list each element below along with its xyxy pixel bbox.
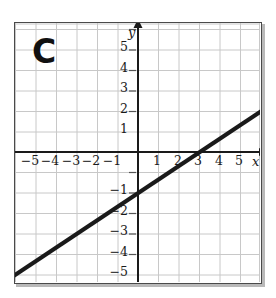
y-tick-label-4: 4: [110, 62, 128, 75]
y-tick-label--3: −3: [104, 225, 128, 238]
x-axis-name: x: [252, 154, 259, 169]
y-tick-label--2: −2: [104, 205, 128, 218]
axis-arrowheads: [134, 23, 261, 156]
x-tick-label-3: 3: [188, 155, 208, 168]
x-tick-label--1: −1: [98, 155, 126, 168]
x-tick-label-2: 2: [168, 155, 188, 168]
y-tick-label--4: −4: [104, 246, 128, 259]
y-tick-label-3: 3: [110, 82, 128, 95]
figure-letter-label: C: [32, 35, 56, 68]
y-tick-label-2: 2: [110, 103, 128, 116]
x-tick-label-4: 4: [209, 155, 229, 168]
y-axis-ticks: [129, 30, 136, 255]
y-axis-name: y: [128, 25, 135, 40]
y-tick-label--5: −5: [104, 266, 128, 279]
y-tick-label-5: 5: [110, 41, 128, 54]
x-tick-label-5: 5: [229, 155, 249, 168]
y-tick-label-1: 1: [110, 123, 128, 136]
graph-figure: C −5 −4 −3 −2 −1 1 2 3 4 5 5 4 3 2 1 −1 …: [0, 0, 276, 298]
y-tick-label--1: −1: [104, 184, 128, 197]
x-tick-label-1: 1: [147, 155, 167, 168]
